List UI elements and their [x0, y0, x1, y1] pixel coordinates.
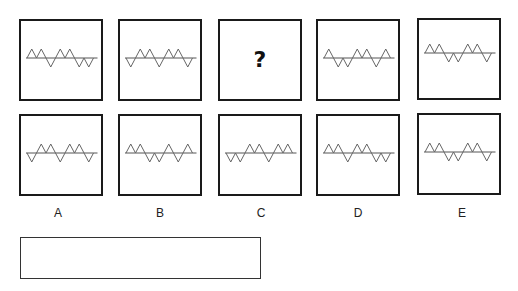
option-label-c: C	[219, 206, 303, 220]
option-label-e: E	[420, 206, 504, 220]
zigzag-figure	[21, 21, 101, 99]
zigzag-figure	[419, 115, 499, 193]
answer-field[interactable]	[20, 237, 261, 279]
zigzag-figure	[318, 116, 398, 194]
zigzag-figure	[220, 116, 300, 194]
zigzag-figure	[120, 116, 200, 194]
sequence-box-missing: ?	[218, 19, 302, 101]
option-box-e[interactable]	[417, 113, 501, 195]
option-label-a: A	[16, 206, 100, 220]
sequence-box-1	[19, 19, 103, 101]
sequence-box-4	[316, 19, 400, 101]
zigzag-figure	[120, 21, 200, 99]
option-box-b[interactable]	[118, 114, 202, 196]
sequence-box-5	[417, 18, 501, 100]
option-label-b: B	[118, 206, 202, 220]
option-box-d[interactable]	[316, 114, 400, 196]
question-mark: ?	[220, 47, 300, 72]
zigzag-figure	[318, 21, 398, 99]
zigzag-figure	[419, 20, 499, 98]
option-box-c[interactable]	[218, 114, 302, 196]
zigzag-figure	[21, 116, 101, 194]
sequence-box-2	[118, 19, 202, 101]
option-label-d: D	[316, 206, 400, 220]
option-box-a[interactable]	[19, 114, 103, 196]
